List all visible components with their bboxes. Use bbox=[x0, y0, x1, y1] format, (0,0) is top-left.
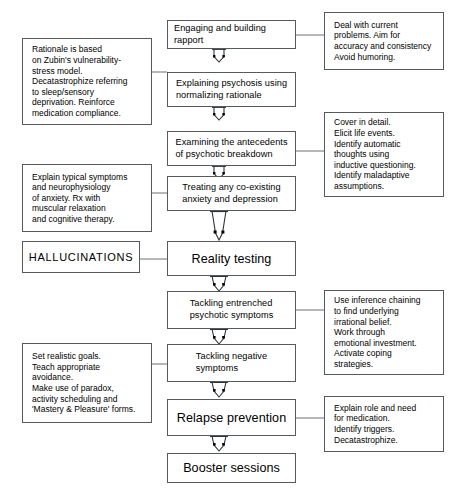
note-current-problems[interactable]: Deal with current problems. Aim for accu… bbox=[324, 12, 444, 70]
note-current-problems-label: Deal with current problems. Aim for accu… bbox=[334, 20, 431, 62]
step-engaging-label: Engaging and building rapport bbox=[174, 23, 289, 46]
note-anxiety[interactable]: Explain typical symptoms and neurophysio… bbox=[22, 164, 152, 232]
step-entrenched-label: Tackling entrenched psychotic symptoms bbox=[190, 298, 274, 321]
note-rationale-label: Rationale is based on Zubin's vulnerabil… bbox=[32, 44, 127, 118]
note-goals[interactable]: Set realistic goals. Teach appropriate a… bbox=[22, 343, 152, 423]
arrow-4 bbox=[212, 211, 226, 240]
step-reality-testing-label: Reality testing bbox=[192, 252, 272, 266]
step-treating-label: Treating any co-existing anxiety and dep… bbox=[182, 182, 280, 205]
note-rationale[interactable]: Rationale is based on Zubin's vulnerabil… bbox=[22, 38, 152, 125]
step-booster-sessions-label: Booster sessions bbox=[183, 461, 280, 475]
arrow-1 bbox=[214, 49, 224, 62]
step-booster-sessions[interactable]: Booster sessions bbox=[167, 453, 296, 483]
note-inference-chaining[interactable]: Use inference chaining to find underlyin… bbox=[324, 290, 444, 375]
step-treating[interactable]: Treating any co-existing anxiety and dep… bbox=[167, 176, 296, 211]
note-cover-detail-label: Cover in detail. Elicit life events. Ide… bbox=[334, 117, 416, 191]
note-anxiety-label: Explain typical symptoms and neurophysio… bbox=[32, 172, 127, 225]
step-examining-label: Examining the antecedents of psychotic b… bbox=[175, 137, 287, 160]
arrow-2 bbox=[214, 107, 224, 120]
note-medication[interactable]: Explain role and need for medication. Id… bbox=[324, 396, 444, 452]
step-reality-testing[interactable]: Reality testing bbox=[167, 241, 296, 276]
arrow-7 bbox=[212, 382, 226, 397]
step-explaining[interactable]: Explaining psychosis using normalizing r… bbox=[167, 72, 296, 107]
step-negative[interactable]: Tackling negative symptoms bbox=[167, 344, 296, 382]
step-examining[interactable]: Examining the antecedents of psychotic b… bbox=[167, 131, 296, 166]
arrow-6 bbox=[212, 329, 226, 344]
step-explaining-label: Explaining psychosis using normalizing r… bbox=[176, 78, 287, 101]
note-goals-label: Set realistic goals. Teach appropriate a… bbox=[32, 351, 135, 415]
note-cover-detail[interactable]: Cover in detail. Elicit life events. Ide… bbox=[324, 112, 444, 197]
note-medication-label: Explain role and need for medication. Id… bbox=[334, 403, 416, 445]
step-entrenched[interactable]: Tackling entrenched psychotic symptoms bbox=[167, 291, 296, 329]
flowchart-canvas: Engaging and building rapport Explaining… bbox=[0, 0, 458, 498]
step-negative-label: Tackling negative symptoms bbox=[196, 351, 267, 374]
arrow-5 bbox=[212, 276, 226, 291]
note-hallucinations[interactable]: HALLUCINATIONS bbox=[22, 241, 140, 273]
step-engaging[interactable]: Engaging and building rapport bbox=[167, 20, 296, 49]
note-hallucinations-label: HALLUCINATIONS bbox=[29, 252, 133, 263]
arrow-8 bbox=[212, 436, 226, 451]
step-relapse-prevention[interactable]: Relapse prevention bbox=[167, 399, 296, 436]
note-inference-chaining-label: Use inference chaining to find underlyin… bbox=[334, 295, 420, 369]
step-relapse-prevention-label: Relapse prevention bbox=[177, 411, 286, 425]
